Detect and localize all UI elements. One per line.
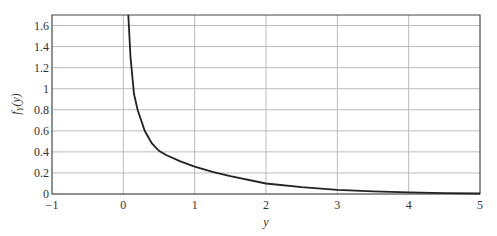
y-axis-ticks: 00.20.40.60.811.21.41.6 <box>34 19 49 201</box>
y-axis-label: fY(y) <box>9 93 25 115</box>
x-axis-ticks: −1012345 <box>46 198 483 212</box>
x-tick-label: 3 <box>334 198 340 212</box>
x-tick-label: 1 <box>192 198 198 212</box>
y-tick-label: 0 <box>43 187 49 201</box>
x-axis-label: y <box>262 215 269 229</box>
y-tick-label: 1.2 <box>34 61 49 75</box>
x-tick-label: 0 <box>120 198 126 212</box>
x-tick-label: 4 <box>406 198 412 212</box>
y-tick-label: 1.4 <box>34 40 49 54</box>
x-tick-label: 2 <box>263 198 269 212</box>
y-tick-label: 0.4 <box>34 145 49 159</box>
y-tick-label: 0.6 <box>34 124 49 138</box>
grid <box>52 15 480 194</box>
y-tick-label: 1 <box>43 82 49 96</box>
y-tick-label: 0.2 <box>34 166 49 180</box>
chart: −1012345 00.20.40.60.811.21.41.6 y fY(y) <box>0 0 497 236</box>
pdf-curve <box>128 15 480 194</box>
y-tick-label: 0.8 <box>34 103 49 117</box>
y-tick-label: 1.6 <box>34 19 49 33</box>
x-tick-label: 5 <box>477 198 483 212</box>
